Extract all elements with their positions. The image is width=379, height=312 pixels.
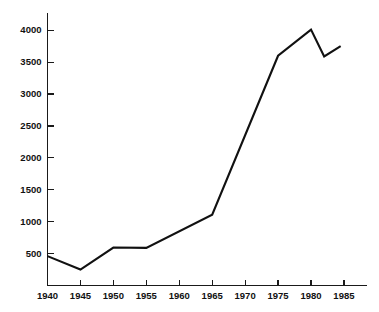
y-tick-label: 1500: [20, 184, 41, 195]
x-tick-label: 1970: [235, 290, 256, 301]
line-chart: 5001000150020002500300035004000 19401945…: [0, 0, 379, 312]
x-tick-label: 1940: [37, 290, 58, 301]
x-tick-label: 1965: [202, 290, 224, 301]
y-tick-label: 2500: [20, 120, 41, 131]
y-tick-label: 500: [26, 248, 42, 259]
data-series-group: [48, 30, 341, 270]
x-tick-label: 1980: [300, 290, 321, 301]
x-tick-label: 1950: [103, 290, 124, 301]
x-tick-label: 1960: [169, 290, 190, 301]
x-tick-label: 1955: [136, 290, 158, 301]
chart-canvas: 5001000150020002500300035004000 19401945…: [0, 0, 379, 312]
y-tick-label: 3000: [20, 88, 41, 99]
x-tick-label: 1975: [267, 290, 289, 301]
x-tick-label: 1945: [70, 290, 92, 301]
y-tick-label: 1000: [20, 216, 41, 227]
y-tick-label: 2000: [20, 152, 41, 163]
y-tick-label: 4000: [20, 24, 41, 35]
x-axis: 1940194519501955196019651970197519801985: [37, 280, 367, 301]
data-series-line: [48, 30, 341, 270]
y-tick-label: 3500: [20, 56, 41, 67]
y-axis: 5001000150020002500300035004000: [20, 13, 53, 286]
x-tick-label: 1985: [333, 290, 355, 301]
